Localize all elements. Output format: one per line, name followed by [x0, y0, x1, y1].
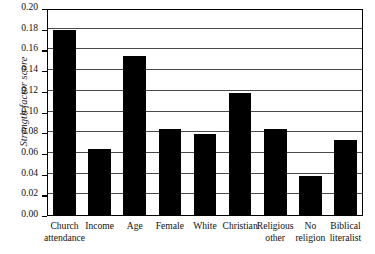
x-axis-label-line1: Biblical [330, 220, 360, 231]
bar-slot [123, 9, 146, 216]
x-axis-label-line1: White [193, 220, 216, 231]
y-tick-label: 0.04 [21, 168, 38, 178]
bar [194, 134, 217, 216]
bar-slot [88, 9, 111, 216]
bar-slot [53, 9, 76, 216]
y-tick-label: 0.08 [21, 126, 38, 136]
x-axis-labels: ChurchattendanceIncomeAgeFemaleWhiteChri… [47, 220, 363, 254]
bar [299, 176, 322, 216]
y-tick-mark [42, 216, 47, 217]
bar [264, 129, 287, 216]
x-axis-label-line1: Church [50, 220, 78, 231]
bars-layer [47, 9, 363, 216]
y-tick-label: 0.10 [21, 106, 38, 116]
bar [123, 56, 146, 216]
bar [229, 93, 252, 216]
bar-slot [334, 9, 357, 216]
bar [159, 129, 182, 216]
bar [88, 149, 111, 216]
x-axis-label-line1: Age [127, 220, 143, 231]
x-axis-label-line2: attendance [43, 232, 86, 244]
bar-slot [299, 9, 322, 216]
bar-slot [159, 9, 182, 216]
bar [53, 30, 76, 216]
y-tick-label: 0.12 [21, 85, 38, 95]
x-axis-label-line1: No [304, 220, 316, 231]
x-axis-label-line1: Female [156, 220, 184, 231]
x-axis-label-line1: Income [85, 220, 114, 231]
y-tick-label: 0.00 [21, 209, 38, 219]
y-tick-label: 0.02 [21, 188, 38, 198]
bar-slot [229, 9, 252, 216]
y-tick-label: 0.18 [21, 23, 38, 33]
y-axis-ticks: 0.200.180.160.140.120.100.080.060.040.02… [0, 9, 47, 216]
bar-slot [264, 9, 287, 216]
bar-slot [194, 9, 217, 216]
bar-chart-figure: Strength factor score 0.200.180.160.140.… [0, 0, 375, 254]
y-tick-label: 0.16 [21, 43, 38, 53]
bar [334, 140, 357, 216]
y-tick-label: 0.14 [21, 64, 38, 74]
x-axis-label-line2: literalist [324, 232, 367, 244]
x-axis-label: Biblicalliteralist [324, 220, 367, 243]
y-tick-label: 0.20 [21, 2, 38, 12]
x-axis-label-line1: Christian [223, 220, 258, 231]
y-tick-label: 0.06 [21, 147, 38, 157]
